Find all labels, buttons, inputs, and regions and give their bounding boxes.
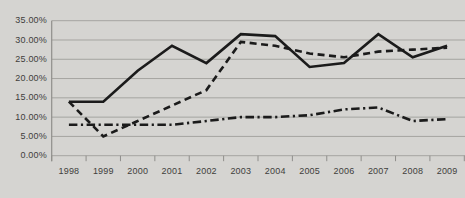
x-axis-tick-label: 2003 (223, 166, 259, 177)
x-axis-tick-label: 2000 (120, 166, 156, 177)
x-axis-tick-label: 1998 (51, 166, 87, 177)
x-axis-tick-label: 2001 (154, 166, 190, 177)
y-axis-tick-label: 15.00% (0, 92, 47, 103)
y-axis-tick-label: 0.00% (0, 150, 47, 161)
chart-canvas: 0.00%5.00%10.00%15.00%20.00%25.00%30.00%… (0, 0, 465, 198)
x-axis-tick-label: 2005 (292, 166, 328, 177)
series-line-dashed (69, 42, 447, 136)
x-axis-tick-label: 2007 (360, 166, 396, 177)
y-axis-tick-label: 25.00% (0, 54, 47, 65)
x-axis-tick-label: 2006 (326, 166, 362, 177)
y-axis-tick-label: 10.00% (0, 112, 47, 123)
series-line-solid (69, 34, 447, 102)
x-axis-tick-label: 2004 (257, 166, 293, 177)
x-axis-tick-label: 1999 (85, 166, 121, 177)
series-line-dash-dot (69, 108, 447, 125)
x-axis-tick-label: 2009 (429, 166, 465, 177)
y-axis-tick-label: 5.00% (0, 131, 47, 142)
x-axis-tick-label: 2008 (395, 166, 431, 177)
y-axis-tick-label: 35.00% (0, 15, 47, 26)
y-axis-tick-label: 30.00% (0, 35, 47, 46)
x-axis-tick-label: 2002 (188, 166, 224, 177)
y-axis-tick-label: 20.00% (0, 73, 47, 84)
